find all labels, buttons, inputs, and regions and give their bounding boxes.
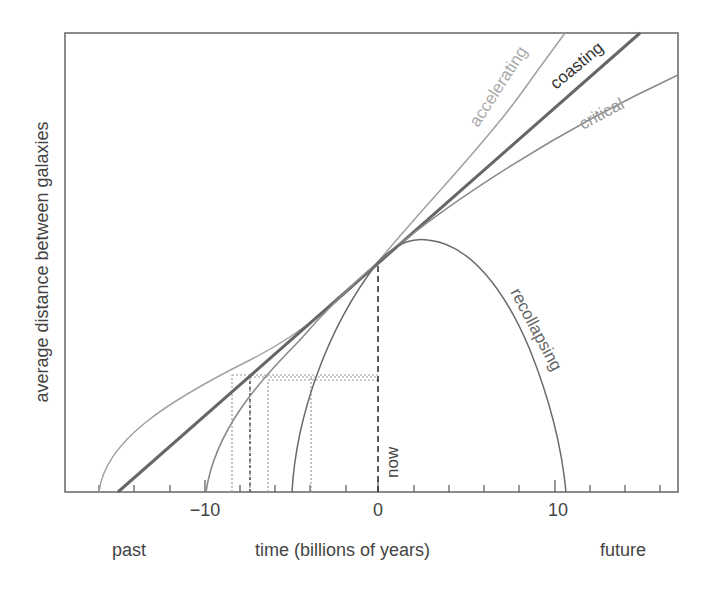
age-markers: [232, 375, 378, 492]
x-tick-label-10: 10: [548, 500, 568, 521]
future-label: future: [600, 540, 646, 561]
plot-frame: [65, 33, 678, 492]
critical-label: critical: [576, 94, 627, 133]
x-axis-ticks: [99, 480, 660, 492]
coasting-curve: [118, 33, 640, 492]
recollapsing-label: recollapsing: [506, 285, 565, 374]
now-label: now: [383, 446, 402, 478]
critical-curve: [206, 75, 678, 492]
x-axis-label: time (billions of years): [255, 540, 430, 561]
x-tick-label-0: 0: [373, 500, 383, 521]
expansion-diagram: accelerating coasting critical recollaps…: [0, 0, 710, 601]
past-label: past: [112, 540, 146, 561]
accelerating-label: accelerating: [465, 43, 531, 130]
y-axis-label: average distance between galaxies: [32, 121, 53, 402]
recollapsing-curve: [292, 239, 566, 492]
x-tick-label-neg10: −10: [190, 500, 221, 521]
